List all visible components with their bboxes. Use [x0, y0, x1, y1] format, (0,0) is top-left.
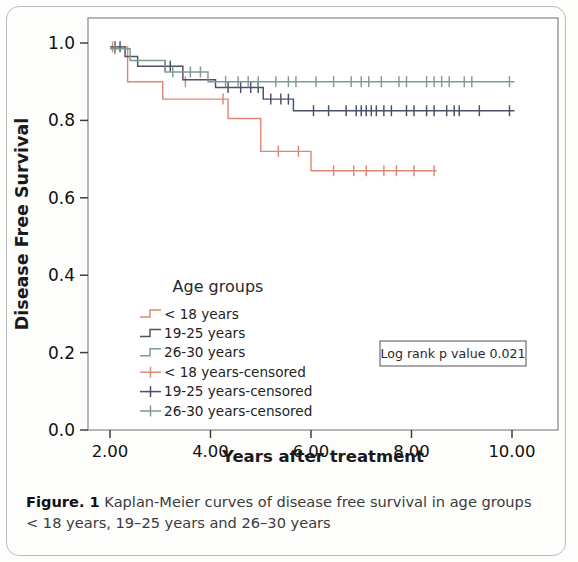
figure-root: 0.00.20.40.60.81.0 2.004.006.008.0010.00…	[0, 0, 578, 562]
y-tick-label: 0.6	[48, 188, 75, 208]
legend-item-label: < 18 years	[164, 306, 239, 322]
plot-background	[88, 18, 558, 430]
legend-item-label: 26-30 years	[164, 344, 245, 360]
chart-canvas: 0.00.20.40.60.81.0 2.004.006.008.0010.00…	[0, 0, 578, 470]
y-tick-label: 0.8	[48, 110, 75, 130]
logrank-label: Log rank p value 0.021	[380, 346, 525, 361]
y-axis-title: Disease Free Survival	[12, 118, 32, 331]
x-tick-label: 10.00	[488, 442, 535, 461]
x-tick-label: 2.00	[92, 442, 129, 461]
y-tick-label: 0.0	[48, 420, 75, 440]
y-axis-ticks: 0.00.20.40.60.81.0	[48, 33, 88, 440]
y-tick-label: 1.0	[48, 33, 75, 53]
figure-caption: Figure. 1 Kaplan-Meier curves of disease…	[26, 492, 544, 533]
y-tick-label: 0.4	[48, 265, 75, 285]
x-axis-title: Years after treatment	[221, 447, 424, 466]
legend-item-label: 26-30 years-censored	[164, 403, 312, 419]
figure-caption-label: Figure. 1	[26, 493, 100, 510]
kaplan-meier-chart: 0.00.20.40.60.81.0 2.004.006.008.0010.00…	[0, 0, 578, 470]
legend-item: 26-30 years-censored	[140, 403, 312, 419]
legend-item-label: < 18 years-censored	[164, 364, 306, 380]
legend-item: < 18 years-censored	[140, 364, 306, 380]
legend-title: Age groups	[173, 277, 264, 296]
figure-caption-text: Kaplan-Meier curves of disease free surv…	[26, 493, 532, 531]
logrank-annotation: Log rank p value 0.021	[380, 341, 526, 366]
legend-item-label: 19-25 years	[164, 325, 245, 341]
y-tick-label: 0.2	[48, 343, 75, 363]
legend-item-label: 19-25 years-censored	[164, 383, 312, 399]
legend-item: 19-25 years-censored	[140, 383, 312, 399]
plot-frame	[88, 18, 558, 430]
